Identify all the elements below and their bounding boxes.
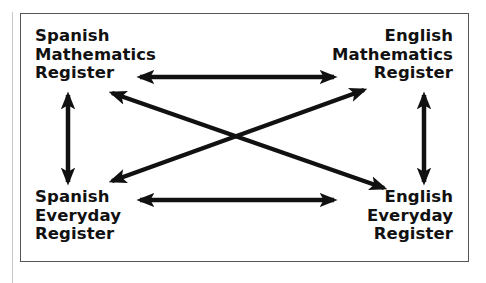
- arrow-spanish-math-english-everyday: [112, 93, 384, 188]
- arrows-layer: [0, 0, 486, 283]
